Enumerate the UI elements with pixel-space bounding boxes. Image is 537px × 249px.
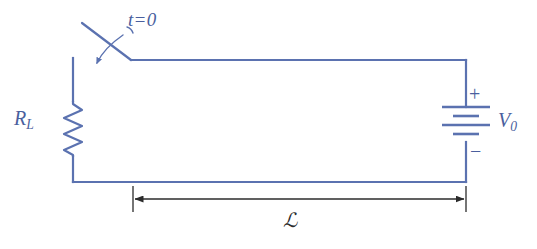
circuit-diagram-figure: t=0 RL V0 + − ℒ (0, 0, 537, 249)
source-label-symbol: V (498, 109, 510, 131)
resistor-label-subscript: L (26, 117, 34, 132)
resistor-zigzag (64, 101, 82, 157)
source-label-subscript: 0 (510, 119, 517, 134)
resistor-label: RL (14, 108, 34, 131)
switch-time-label: t=0 (128, 10, 157, 29)
resistor-label-symbol: R (14, 107, 26, 129)
source-label: V0 (498, 110, 517, 133)
polarity-minus-label: − (470, 141, 481, 161)
switch-blade[interactable] (82, 23, 131, 60)
polarity-plus-label: + (469, 84, 480, 104)
circuit-schematic-canvas (0, 0, 537, 249)
dimension-group (133, 186, 466, 212)
switch-close-arrow-icon (97, 35, 123, 63)
battery-symbol (442, 107, 490, 134)
length-label: ℒ (283, 210, 297, 230)
